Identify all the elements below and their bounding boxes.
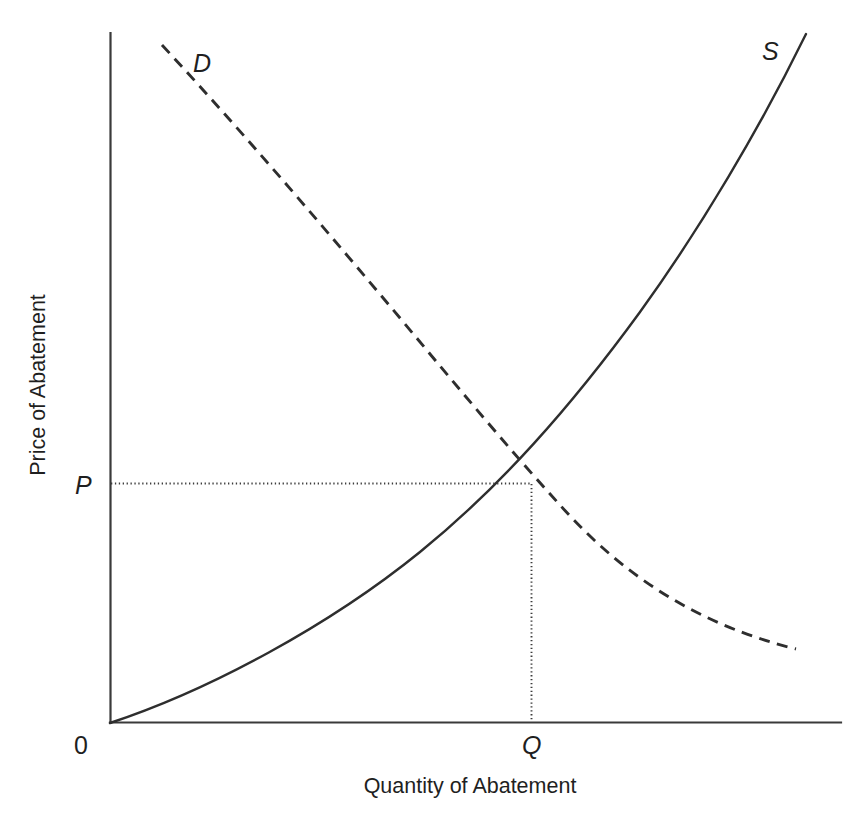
- supply-demand-figure: D S 0 P Q Price of Abatement Quantity of…: [0, 0, 867, 830]
- y-axis-title: Price of Abatement: [26, 294, 50, 476]
- equilibrium-quantity-label: Q: [522, 731, 541, 759]
- supply-curve-label: S: [762, 37, 779, 65]
- chart-background: [0, 0, 867, 830]
- x-axis-title: Quantity of Abatement: [364, 774, 577, 798]
- origin-label: 0: [74, 731, 88, 759]
- equilibrium-price-label: P: [75, 471, 92, 499]
- chart-canvas: D S 0 P Q Price of Abatement Quantity of…: [0, 0, 867, 830]
- demand-curve-label: D: [193, 49, 211, 77]
